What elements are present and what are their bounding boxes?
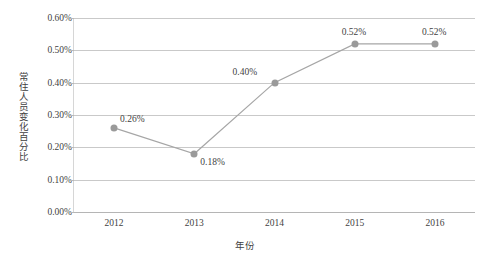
x-axis-baseline [74,212,475,213]
y-axis-tick-label: 0.10% [47,175,72,185]
x-axis-tick-label: 2012 [105,218,124,228]
data-point-label: 0.18% [200,157,225,167]
data-point-label: 0.26% [120,114,145,124]
data-point-label: 0.52% [342,27,367,37]
y-axis-tick-label: 0.50% [47,45,72,55]
data-point-marker [431,40,438,47]
data-point-label: 0.52% [422,27,447,37]
data-point-marker [111,124,118,131]
x-axis-tick-labels: 20122013201420152016 [74,214,475,234]
line-chart: 常住人员变化百分比 0.60%0.50%0.40%0.30%0.20%0.10%… [0,0,490,262]
y-axis-tick-label: 0.40% [47,78,72,88]
y-axis-tick-label: 0.30% [47,110,72,120]
y-axis-tick-label: 0.60% [47,13,72,23]
data-point-marker [271,79,278,86]
y-axis-tick-label: 0.20% [47,142,72,152]
y-axis-tick-label: 0.00% [47,207,72,217]
x-axis-tick-label: 2013 [185,218,204,228]
x-axis-tick-label: 2015 [345,218,364,228]
y-axis-tick-labels: 0.60%0.50%0.40%0.30%0.20%0.10%0.00% [32,0,72,262]
x-axis-title: 年份 [0,238,490,252]
y-axis-title: 常住人员变化百分比 [14,42,30,192]
x-axis-tick-label: 2016 [425,218,444,228]
y-axis-tick-mark [70,212,74,213]
data-point-marker [351,40,358,47]
data-point-label: 0.40% [233,67,258,77]
data-point-marker [191,150,198,157]
plot-area: 0.26%0.18%0.40%0.52%0.52% [74,18,475,212]
x-axis-tick-label: 2014 [265,218,284,228]
